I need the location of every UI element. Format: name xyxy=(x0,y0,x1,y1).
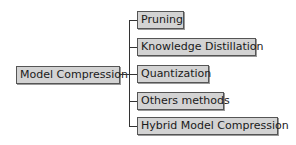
child-node-pruning: Pruning xyxy=(137,11,184,29)
child-node-knowledge-distillation: Knowledge Distillation xyxy=(137,38,256,56)
root-node: Model Compression xyxy=(16,66,120,84)
branch-connector xyxy=(129,74,137,75)
branch-connector xyxy=(129,20,137,21)
branch-connector xyxy=(129,47,137,48)
branch-connector xyxy=(129,126,137,127)
child-node-others-methods: Others methods xyxy=(137,92,224,110)
child-node-hybrid-model-compression: Hybrid Model Compression xyxy=(137,117,278,135)
branch-connector xyxy=(129,101,137,102)
child-node-quantization: Quantization xyxy=(137,65,209,83)
